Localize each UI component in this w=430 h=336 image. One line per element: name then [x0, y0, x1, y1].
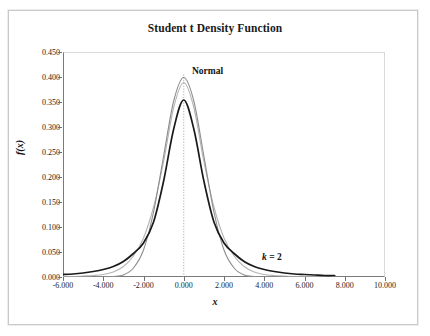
y-axis-tick-mark	[58, 52, 62, 53]
y-axis-tick-mark	[58, 252, 62, 253]
x-axis-title: x	[0, 296, 430, 307]
x-axis-tick-label: -6.000	[53, 281, 74, 290]
y-axis-tick-mark	[58, 202, 62, 203]
x-axis-tick-label: -2.000	[133, 281, 154, 290]
x-axis-tick-label: -4.000	[93, 281, 114, 290]
x-axis-tick-label: 4.000	[255, 281, 273, 290]
x-axis-tick-label: 0.000	[175, 281, 193, 290]
density-curve	[63, 78, 335, 278]
y-axis-tick-mark	[58, 152, 62, 153]
annotation-normal-curve: Normal	[192, 66, 223, 76]
annotation-k-equals-2: k = 2	[262, 252, 282, 262]
x-axis-tick-label: 10.000	[374, 281, 396, 290]
chart-figure: Student t Density Function f(x) 0.0000.0…	[0, 0, 430, 336]
chart-title: Student t Density Function	[0, 22, 430, 34]
y-axis-tick-mark	[58, 127, 62, 128]
x-axis-tick-label: 8.000	[336, 281, 354, 290]
y-axis-tick-mark	[58, 177, 62, 178]
y-axis-tick-mark	[58, 227, 62, 228]
y-axis-tick-mark	[58, 77, 62, 78]
y-axis-tick-mark	[58, 102, 62, 103]
density-curve	[63, 83, 335, 278]
x-axis-tick-label: 2.000	[215, 281, 233, 290]
k-value: = 2	[267, 252, 282, 262]
density-curves-plot	[63, 52, 385, 277]
x-axis-tick-label: 6.000	[296, 281, 314, 290]
x-axis-title-text: x	[213, 296, 218, 307]
y-axis-tick-mark	[58, 277, 62, 278]
